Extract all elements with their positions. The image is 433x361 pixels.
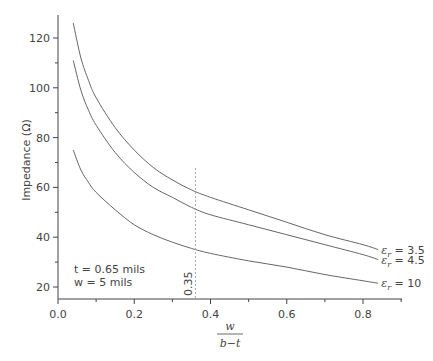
y-axis-ticks: 20406080100120	[29, 32, 58, 294]
series-label: εr = 10	[381, 277, 421, 292]
x-tick-label: 0.2	[126, 308, 144, 321]
x-axis-ticks: 0.00.20.40.60.8	[49, 299, 401, 321]
impedance-chart: 0.35 20406080100120 0.00.20.40.60.8 Impe…	[0, 0, 433, 361]
series-line	[73, 23, 378, 250]
y-tick-label: 20	[36, 281, 50, 294]
y-tick-label: 60	[36, 181, 50, 194]
y-tick-label: 120	[29, 32, 50, 45]
series-labels: εr = 3.5εr = 4.5εr = 10	[381, 244, 424, 293]
y-tick-label: 80	[36, 132, 50, 145]
x-tick-label: 0.8	[354, 308, 372, 321]
y-axis-title: Impedance (Ω)	[20, 119, 33, 201]
x-tick-label: 0.0	[49, 308, 67, 321]
y-tick-label: 100	[29, 82, 50, 95]
annotation-width: w = 5 mils	[74, 276, 133, 289]
series-line	[73, 60, 378, 259]
x-axis-title-numerator: w	[225, 320, 235, 333]
x-axis-title-denominator: b−t	[220, 337, 241, 350]
series-lines	[73, 23, 378, 283]
y-tick-label: 40	[36, 231, 50, 244]
marker-label: 0.35	[182, 272, 195, 297]
x-tick-label: 0.4	[202, 308, 220, 321]
annotation-thickness: t = 0.65 mils	[74, 263, 145, 276]
x-tick-label: 0.6	[278, 308, 296, 321]
